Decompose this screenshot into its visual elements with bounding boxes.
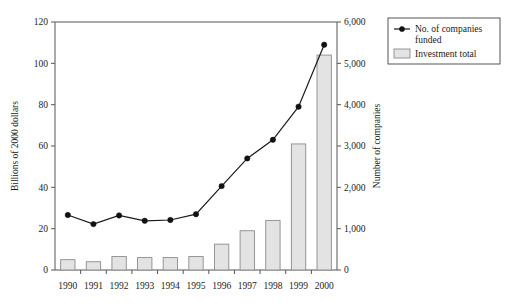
- x-axis-tick-label: 1995: [187, 281, 206, 291]
- x-axis-tick-label: 1991: [84, 281, 103, 291]
- x-axis-tick-label: 1999: [289, 281, 308, 291]
- chart-figure: 020406080100120 01,0002,0003,0004,0005,0…: [0, 0, 505, 306]
- bar-investment-total: [214, 244, 228, 270]
- y-axis-right-tick-label: 6,000: [344, 17, 366, 27]
- y-axis-left-ticks: 020406080100120: [34, 17, 55, 275]
- y-axis-right-tick-label: 5,000: [344, 59, 366, 69]
- line-point-companies-funded: [168, 217, 173, 222]
- chart-legend: No. of companies funded Investment total: [388, 18, 500, 64]
- line-point-companies-funded: [193, 212, 198, 217]
- x-axis-tick-label: 1993: [135, 281, 154, 291]
- line-point-companies-funded: [142, 218, 147, 223]
- x-axis-tick-label: 1992: [110, 281, 129, 291]
- bar-series-investment-total: [61, 55, 332, 270]
- line-point-companies-funded: [245, 156, 250, 161]
- y-axis-left-tick-label: 120: [34, 17, 49, 27]
- line-path-companies-funded: [68, 45, 324, 224]
- x-axis-tick-label: 1998: [263, 281, 282, 291]
- y-axis-right-title: Number of companies: [372, 103, 382, 188]
- bar-investment-total: [138, 258, 152, 270]
- x-axis-tick-label: 2000: [315, 281, 334, 291]
- legend-bar-swatch-icon: [394, 49, 410, 58]
- y-axis-right-ticks: 01,0002,0003,0004,0005,0006,000: [337, 17, 366, 275]
- line-point-companies-funded: [116, 213, 121, 218]
- line-point-companies-funded: [65, 212, 70, 217]
- bar-investment-total: [317, 55, 331, 270]
- bar-investment-total: [112, 257, 126, 270]
- y-axis-left-title: Billions of 2000 dollars: [10, 101, 20, 191]
- bar-investment-total: [163, 258, 177, 270]
- x-axis-ticks: 1990199119921993199419951996199719981999…: [58, 270, 334, 291]
- bar-investment-total: [240, 231, 254, 270]
- line-point-companies-funded: [270, 137, 275, 142]
- x-axis-tick-label: 1997: [238, 281, 257, 291]
- x-axis-tick-label: 1990: [58, 281, 77, 291]
- bar-investment-total: [266, 220, 280, 270]
- x-axis-tick-label: 1996: [212, 281, 231, 291]
- line-point-companies-funded: [219, 183, 224, 188]
- y-axis-right-tick-label: 4,000: [344, 100, 366, 110]
- y-axis-left-tick-label: 80: [39, 100, 49, 110]
- y-axis-right-tick-label: 1,000: [344, 224, 366, 234]
- legend-point-marker-icon: [399, 26, 404, 31]
- legend-label-companies-line2: funded: [415, 35, 442, 45]
- bar-investment-total: [86, 262, 100, 270]
- y-axis-right-tick-label: 0: [344, 265, 349, 275]
- bar-investment-total: [189, 257, 203, 270]
- line-point-companies-funded: [296, 104, 301, 109]
- y-axis-right-tick-label: 3,000: [344, 141, 366, 151]
- legend-label-companies-line1: No. of companies: [415, 24, 483, 34]
- line-point-companies-funded: [321, 42, 326, 47]
- bar-investment-total: [291, 144, 305, 270]
- line-series-companies-funded: [65, 42, 327, 227]
- y-axis-left-tick-label: 20: [39, 224, 49, 234]
- chart-container: 020406080100120 01,0002,0003,0004,0005,0…: [0, 0, 505, 306]
- y-axis-left-tick-label: 100: [34, 59, 49, 69]
- line-point-companies-funded: [91, 221, 96, 226]
- legend-label-investment-total: Investment total: [415, 49, 477, 59]
- x-axis-tick-label: 1994: [161, 281, 180, 291]
- bar-investment-total: [61, 260, 75, 270]
- y-axis-left-tick-label: 40: [39, 183, 49, 193]
- y-axis-left-tick-label: 0: [43, 265, 48, 275]
- y-axis-right-tick-label: 2,000: [344, 183, 366, 193]
- y-axis-left-tick-label: 60: [39, 141, 49, 151]
